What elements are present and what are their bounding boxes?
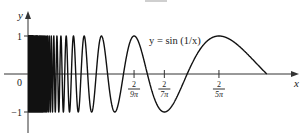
x-tick-denominator: 9π	[130, 90, 139, 99]
y-axis-arrow-icon	[25, 11, 31, 19]
x-axis-label: x	[293, 77, 299, 89]
curve-label: y = sin (1/x)	[149, 35, 201, 47]
y-tick-label-1: 1	[17, 31, 22, 42]
x-tick-numerator: 2	[217, 80, 221, 89]
x-tick-denominator: 5π	[215, 90, 224, 99]
y-tick-label-0: 0	[17, 77, 22, 88]
x-tick-denominator: 7π	[160, 90, 169, 99]
cropped-text-fragment	[145, 0, 167, 2]
x-tick-numerator: 2	[162, 80, 166, 89]
x-tick-numerator: 2	[132, 80, 136, 89]
sin-one-over-x-plot: y x 1 0 −1 2 9π 2 7π 2 5π y = sin (1/x)	[0, 0, 306, 137]
y-axis-label: y	[17, 9, 23, 21]
y-tick-label-minus-1: −1	[11, 107, 22, 118]
